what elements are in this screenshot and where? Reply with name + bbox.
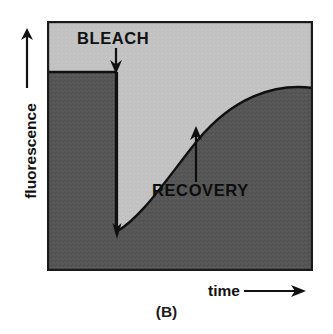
frap-plot-svg	[47, 21, 313, 271]
frap-figure: fluorescence	[0, 0, 333, 334]
y-axis-label-group: fluorescence	[8, 22, 48, 270]
figure-caption: (B)	[0, 303, 333, 321]
x-axis-label: time	[208, 282, 240, 300]
down-arrow-icon	[108, 48, 124, 74]
bleach-drop-line	[108, 47, 126, 239]
x-axis-label-group: time	[208, 278, 333, 304]
up-arrow-icon	[188, 126, 204, 182]
y-axis-label: fluorescence	[22, 66, 40, 236]
right-arrow-icon	[244, 284, 306, 298]
recovery-annotation-label: RECOVERY	[152, 181, 249, 200]
plot-area	[47, 21, 313, 271]
bleach-annotation-label: BLEACH	[77, 29, 149, 48]
